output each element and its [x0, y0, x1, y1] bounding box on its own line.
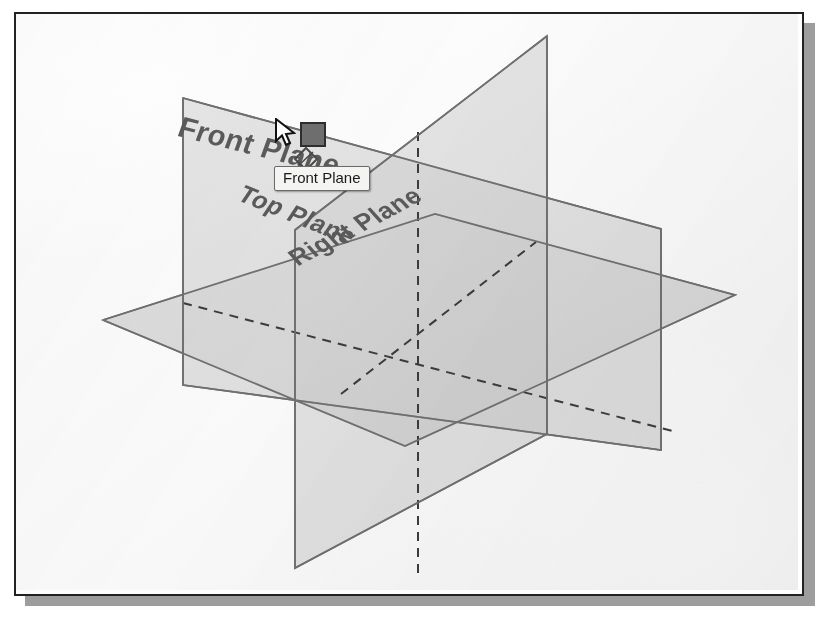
selection-square-handle[interactable]	[300, 122, 326, 147]
screenshot-root: Front Plane Top Plane Right Plane Front …	[0, 0, 825, 618]
cad-viewport-frame: Front Plane Top Plane Right Plane Front …	[14, 12, 804, 596]
plane-tooltip: Front Plane	[274, 166, 370, 191]
cad-scene-canvas[interactable]	[16, 14, 798, 590]
